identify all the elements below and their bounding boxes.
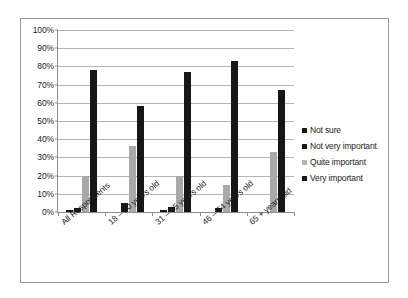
y-axis-tick-mark	[55, 66, 58, 67]
y-axis-tick-label: 80%	[37, 61, 54, 71]
legend-item[interactable]: Not sure	[302, 122, 386, 138]
legend-label: Not sure	[310, 125, 341, 135]
legend-swatch-icon	[302, 176, 307, 181]
x-axis-tick-mark	[200, 212, 201, 216]
chart-frame: 0%10%20%30%40%50%60%70%80%90%100% All Re…	[20, 18, 389, 283]
plot-area: 0%10%20%30%40%50%60%70%80%90%100%	[57, 30, 294, 213]
y-axis-tick-mark	[55, 121, 58, 122]
legend-swatch-icon	[302, 160, 307, 165]
y-axis-tick-label: 0%	[42, 207, 54, 217]
legend-label: Not very important	[310, 141, 377, 151]
x-axis-tick-mark	[58, 212, 59, 216]
y-axis-tick-mark	[55, 102, 58, 103]
y-axis-tick-label: 90%	[37, 43, 54, 53]
legend-item[interactable]: Quite important	[302, 154, 386, 170]
y-axis-tick-mark	[55, 30, 58, 31]
y-axis-tick-label: 20%	[37, 171, 54, 181]
x-axis-tick-mark	[152, 212, 153, 216]
bar-group	[207, 30, 239, 212]
y-axis-tick-mark	[55, 48, 58, 49]
y-axis-tick-label: 10%	[37, 189, 54, 199]
bar-group	[113, 30, 145, 212]
legend-swatch-icon	[302, 144, 307, 149]
bar-group	[254, 30, 286, 212]
y-axis-tick-mark	[55, 139, 58, 140]
chart-legend: Not sureNot very importantQuite importan…	[302, 122, 386, 186]
legend-swatch-icon	[302, 128, 307, 133]
bar-group	[160, 30, 192, 212]
y-axis-tick-label: 100%	[33, 25, 54, 35]
legend-item[interactable]: Very important	[302, 170, 386, 186]
y-axis-tick-mark	[55, 193, 58, 194]
x-axis-tick-mark	[105, 212, 106, 216]
y-axis-tick-label: 70%	[37, 80, 54, 90]
y-axis-tick-label: 40%	[37, 134, 54, 144]
y-axis-tick-label: 30%	[37, 152, 54, 162]
y-axis-tick-label: 50%	[37, 116, 54, 126]
x-axis-tick-mark	[294, 212, 295, 216]
x-axis-tick-mark	[247, 212, 248, 216]
y-axis-tick-mark	[55, 175, 58, 176]
y-axis-tick-mark	[55, 84, 58, 85]
legend-label: Quite important	[310, 157, 366, 167]
y-axis-tick-label: 60%	[37, 98, 54, 108]
legend-label: Very important	[310, 173, 363, 183]
bar-group	[66, 30, 98, 212]
legend-item[interactable]: Not very important	[302, 138, 386, 154]
y-axis-tick-mark	[55, 157, 58, 158]
